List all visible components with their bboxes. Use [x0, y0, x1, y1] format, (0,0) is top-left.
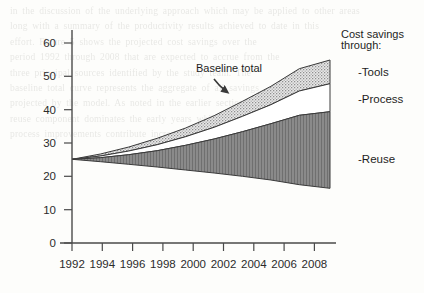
y-tick-label: 60: [43, 37, 56, 49]
y-tick-label: 50: [43, 70, 56, 82]
chart-figure: 60 50 40 30 20 10 0 1992 1994 1996 1998 …: [0, 0, 424, 293]
y-tick-labels: 60 50 40 30 20 10 0: [43, 37, 56, 249]
y-tick-label: 30: [43, 137, 56, 149]
y-tick-label: 40: [43, 104, 56, 116]
x-tick-label: 2006: [271, 258, 297, 270]
x-tick-label: 1996: [120, 258, 146, 270]
chart-svg: 60 50 40 30 20 10 0 1992 1994 1996 1998 …: [0, 0, 424, 293]
legend-item-process: -Process: [358, 93, 404, 105]
y-tick-label: 0: [50, 237, 56, 249]
x-tick-label: 1994: [90, 258, 116, 270]
x-tick-label: 2000: [180, 258, 206, 270]
legend: Cost savings through: -Tools -Process -R…: [341, 28, 404, 165]
y-tick-label: 10: [43, 204, 56, 216]
legend-item-reuse: -Reuse: [358, 153, 395, 165]
plot-area: [72, 60, 330, 188]
baseline-total-arrow: [214, 79, 227, 92]
y-ticks: [64, 43, 72, 243]
x-ticks: [72, 243, 314, 251]
x-tick-label: 2004: [241, 258, 267, 270]
x-tick-labels: 1992 1994 1996 1998 2000 2002 2004 2006 …: [59, 258, 327, 270]
legend-title-line2: through:: [341, 39, 381, 51]
baseline-total-annotation: Baseline total: [196, 62, 262, 92]
baseline-total-label: Baseline total: [196, 62, 262, 74]
x-tick-label: 1998: [150, 258, 176, 270]
y-tick-label: 20: [43, 170, 56, 182]
legend-item-tools: -Tools: [358, 66, 389, 78]
x-tick-label: 2008: [302, 258, 328, 270]
x-tick-label: 1992: [59, 258, 85, 270]
x-tick-label: 2002: [211, 258, 237, 270]
